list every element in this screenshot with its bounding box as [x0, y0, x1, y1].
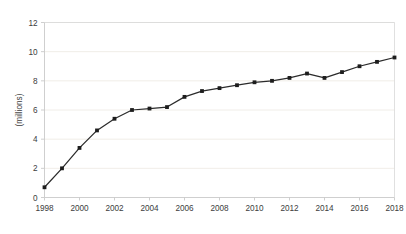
data-point-2008: [218, 86, 222, 90]
x-tick-label-2006: 2006: [175, 204, 194, 213]
data-point-2016: [358, 64, 362, 68]
x-tick-label-2000: 2000: [70, 204, 89, 213]
data-point-2006: [183, 95, 187, 99]
data-point-2017: [375, 60, 379, 64]
data-point-2011: [270, 79, 274, 83]
chart-background: [0, 0, 406, 234]
data-point-2002: [113, 117, 117, 121]
x-tick-label-1998: 1998: [35, 204, 54, 213]
data-point-2001: [95, 129, 99, 133]
x-tick-label-2008: 2008: [210, 204, 229, 213]
data-point-2010: [253, 80, 257, 84]
y-tick-label-12: 12: [28, 19, 38, 28]
y-tick-label-8: 8: [33, 77, 38, 86]
x-tick-label-2010: 2010: [245, 204, 264, 213]
data-point-2013: [305, 72, 309, 76]
data-point-1998: [43, 185, 47, 189]
data-point-2003: [130, 108, 134, 112]
data-point-2009: [235, 83, 239, 87]
y-tick-label-0: 0: [33, 194, 38, 203]
data-point-2015: [340, 70, 344, 74]
y-axis-title-text: (millions): [15, 93, 24, 126]
x-tick-label-2012: 2012: [280, 204, 299, 213]
x-tick-label-2018: 2018: [385, 204, 404, 213]
y-tick-label-4: 4: [33, 135, 38, 144]
data-point-2018: [393, 56, 397, 60]
data-point-2012: [288, 76, 292, 80]
x-tick-label-2002: 2002: [105, 204, 124, 213]
x-tick-label-2016: 2016: [350, 204, 369, 213]
chart-canvas: 024681012 199820002002200420062008201020…: [0, 0, 406, 234]
data-point-2000: [78, 146, 82, 150]
y-tick-label-2: 2: [33, 164, 38, 173]
y-tick-label-6: 6: [33, 106, 38, 115]
y-axis-title: (millions): [15, 93, 24, 126]
x-tick-label-2004: 2004: [140, 204, 159, 213]
line-chart: 024681012 199820002002200420062008201020…: [0, 0, 406, 234]
x-tick-label-2014: 2014: [315, 204, 334, 213]
data-point-2014: [323, 76, 327, 80]
data-point-2005: [165, 105, 169, 109]
y-tick-label-10: 10: [28, 48, 38, 57]
data-point-2004: [148, 107, 152, 111]
data-point-2007: [200, 89, 204, 93]
data-point-1999: [60, 166, 64, 170]
